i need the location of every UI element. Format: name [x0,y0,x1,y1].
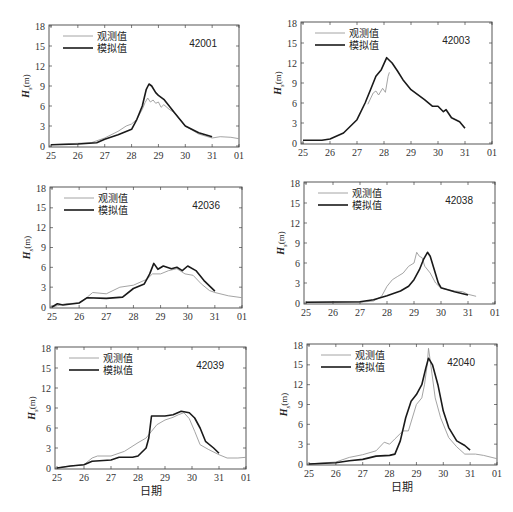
y-tick-label: 12 [290,218,300,229]
x-tick-label: 27 [106,472,116,483]
observed-series-line [51,98,239,145]
y-tick-label: 6 [292,98,297,109]
x-tick-label: 29 [153,150,163,161]
y-tick-label: 0 [298,459,303,470]
y-tick-label: 3 [295,278,300,289]
y-tick-label: 0 [41,302,46,313]
y-tick-label: 6 [41,262,46,273]
y-tick-label: 3 [292,118,297,129]
x-tick-label: 31 [460,147,470,158]
y-tick-label: 15 [36,202,46,213]
y-tick-label: 12 [287,58,297,69]
x-tick-label: 25 [46,150,56,161]
y-tick-label: 15 [41,363,51,374]
y-tick-label: 6 [298,419,303,430]
x-tick-label: 26 [325,147,335,158]
y-tick-label: 9 [292,78,297,89]
x-tick-label: 25 [301,307,311,318]
x-tick-label: 28 [382,307,392,318]
legend-observed-label: 观测值 [349,27,379,39]
y-tick-label: 15 [287,38,297,49]
y-tick-label: 18 [293,340,303,351]
x-tick-label: 31 [210,311,220,322]
x-tick-label: 26 [328,307,338,318]
y-axis-label: Hs(m) [21,236,35,261]
figure-canvas: 03691215182526272829303101Hs(m)观测值模拟值420… [0,0,513,512]
x-tick-label: 01 [237,311,247,322]
y-tick-label: 9 [295,238,300,249]
station-id-label: 42038 [445,195,473,206]
y-axis-label: Hs(m) [20,74,34,99]
x-axis-label: 日期 [391,481,413,494]
x-tick-label: 27 [358,468,368,479]
simulated-series-line [303,58,465,141]
x-tick-label: 25 [47,311,57,322]
station-id-label: 42001 [189,38,217,49]
x-tick-label: 29 [156,311,166,322]
ylabel-unit: (m) [276,231,286,244]
y-tick-label: 15 [290,198,300,209]
station-id-label: 42003 [442,35,470,46]
x-tick-label: 31 [463,307,473,318]
x-tick-label: 01 [241,472,251,483]
legend-simulated-label: 模拟值 [349,39,379,51]
y-tick-label: 3 [40,121,45,132]
x-tick-label: 30 [180,150,190,161]
legend-simulated-label: 模拟值 [103,364,133,376]
x-tick-label: 30 [438,468,448,479]
ylabel-unit: (m) [279,393,289,406]
simulated-series-line [51,84,212,145]
x-tick-label: 31 [207,150,217,161]
panel-42040: 03691215182526272829303101Hs(m)日期观测值模拟值4… [278,340,502,495]
y-tick-label: 18 [35,21,45,32]
station-id-label: 42039 [196,360,224,371]
x-tick-label: 27 [101,311,111,322]
x-tick-label: 31 [465,468,475,479]
x-tick-label: 26 [79,472,89,483]
x-tick-label: 28 [127,150,137,161]
y-tick-label: 3 [298,439,303,450]
y-tick-label: 9 [46,403,51,414]
panel-42001: 03691215182526272829303101Hs(m)观测值模拟值420… [20,21,244,162]
y-tick-label: 18 [287,18,297,29]
legend-simulated-label: 模拟值 [355,361,385,373]
x-tick-label: 30 [433,147,443,158]
legend-simulated-label: 模拟值 [98,204,128,216]
y-tick-label: 3 [46,443,51,454]
x-tick-label: 28 [379,147,389,158]
legend-simulated-label: 模拟值 [97,42,127,54]
x-tick-label: 28 [128,311,138,322]
x-tick-label: 01 [487,147,497,158]
x-axis-label: 日期 [140,485,162,498]
y-tick-label: 12 [36,222,46,233]
y-axis-label: Hs(m) [26,396,40,421]
y-tick-label: 9 [40,81,45,92]
panel-42003: 03691215182526272829303101Hs(m)观测值模拟值420… [272,18,497,159]
station-id-label: 42036 [192,200,220,211]
y-tick-label: 15 [35,41,45,52]
y-tick-label: 0 [295,298,300,309]
y-axis-label: Hs(m) [278,393,292,418]
ylabel-unit: (m) [21,74,31,87]
x-tick-label: 01 [492,468,502,479]
y-tick-label: 6 [46,423,51,434]
x-tick-label: 29 [160,472,170,483]
y-tick-label: 18 [290,178,300,189]
legend-observed-label: 观测值 [98,192,128,204]
y-tick-label: 9 [41,242,46,253]
legend-observed-label: 观测值 [103,352,133,364]
legend-observed-label: 观测值 [355,349,385,361]
y-tick-label: 12 [293,379,303,390]
y-tick-label: 0 [292,138,297,149]
x-tick-label: 28 [133,472,143,483]
x-tick-label: 30 [436,307,446,318]
x-tick-label: 25 [298,147,308,158]
x-tick-label: 01 [490,307,500,318]
x-tick-label: 27 [352,147,362,158]
station-id-label: 42040 [447,357,475,368]
simulated-series-line [57,411,219,468]
x-tick-label: 26 [74,311,84,322]
simulated-series-line [309,358,470,464]
y-tick-label: 6 [40,101,45,112]
x-tick-label: 25 [52,472,62,483]
